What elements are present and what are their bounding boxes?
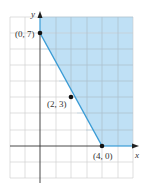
y-axis-arrow-icon: [38, 11, 43, 18]
point-0-7: [38, 31, 43, 36]
feasible-region-chart: y x (0, 7) (2, 3) (4, 0): [0, 0, 144, 187]
point-label-4-0: (4, 0): [93, 151, 113, 161]
point-2-3: [69, 95, 74, 100]
x-axis-arrow-icon: [132, 144, 139, 149]
point-label-0-7: (0, 7): [15, 29, 35, 39]
shaded-region: [40, 17, 133, 146]
x-axis-label: x: [134, 150, 139, 160]
y-axis-label: y: [30, 9, 35, 19]
point-label-2-3: (2, 3): [47, 99, 67, 109]
point-4-0: [100, 144, 105, 149]
